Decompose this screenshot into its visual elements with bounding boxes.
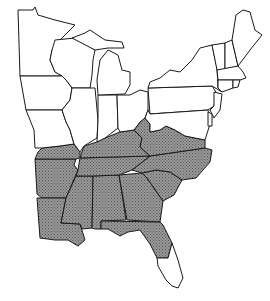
state-florida-north — [101, 221, 172, 258]
state-iowa — [20, 76, 72, 110]
state-rhode-island — [233, 80, 240, 88]
state-connecticut — [218, 80, 233, 92]
state-michigan-lower — [97, 50, 130, 95]
state-maine — [232, 10, 262, 66]
eastern-us-map — [0, 0, 270, 301]
state-delaware — [208, 112, 212, 126]
state-new-york — [148, 45, 222, 92]
